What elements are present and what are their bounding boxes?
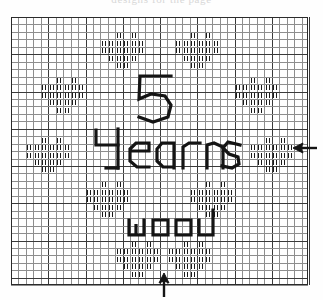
stitch-mark [190, 32, 197, 39]
stitch-mark [138, 248, 145, 255]
stitch-mark [123, 40, 130, 47]
stitch-mark [153, 256, 160, 263]
stitch-mark [78, 92, 85, 99]
stitch-mark [108, 196, 115, 203]
stitch-mark [272, 144, 279, 151]
stitch-mark [101, 40, 108, 47]
stitch-mark [272, 92, 279, 99]
stitch-mark [257, 92, 264, 99]
stitch-mark [64, 99, 71, 106]
stitch-mark [198, 241, 205, 248]
stitch-mark [205, 181, 212, 188]
stitch-mark [101, 47, 108, 54]
stitch-mark [56, 92, 63, 99]
stitch-mark [168, 256, 175, 263]
stitch-mark [183, 256, 190, 263]
stitch-mark [71, 84, 78, 91]
stitch-mark [213, 40, 220, 47]
stitch-mark [116, 181, 123, 188]
stitch-mark [183, 47, 190, 54]
stitch-mark [93, 204, 100, 211]
stitch-mark [108, 55, 115, 62]
stitch-mark [213, 47, 220, 54]
stitch-mark [205, 55, 212, 62]
stitch-mark [250, 77, 257, 84]
stitch-mark [146, 263, 153, 270]
stitch-mark [205, 40, 212, 47]
stitch-mark [272, 166, 279, 173]
stitch-mark [183, 248, 190, 255]
stitch-mark [71, 99, 78, 106]
stitch-mark [49, 99, 56, 106]
stitch-mark [146, 248, 153, 255]
stitch-mark [131, 271, 138, 278]
stitch-mark [116, 248, 123, 255]
stitch-mark [26, 152, 33, 159]
stitch-mark [235, 84, 242, 91]
stitch-mark [190, 263, 197, 270]
stitch-mark [242, 84, 249, 91]
stitch-mark [198, 47, 205, 54]
stitch-mark [138, 47, 145, 54]
stitch-mark [175, 47, 182, 54]
stitch-mark [183, 263, 190, 270]
stitch-mark [183, 40, 190, 47]
stitch-mark [183, 271, 190, 278]
stitch-mark [56, 152, 63, 159]
stitch-mark [265, 84, 272, 91]
stitch-mark [123, 256, 130, 263]
stitch-mark [116, 189, 123, 196]
stitch-mark [131, 47, 138, 54]
stitch-mark [131, 263, 138, 270]
stitch-mark [190, 248, 197, 255]
stitch-mark [34, 152, 41, 159]
stitch-mark [265, 144, 272, 151]
stitch-mark [146, 241, 153, 248]
stitch-mark [265, 99, 272, 106]
stitch-mark [190, 196, 197, 203]
stitch-mark [93, 189, 100, 196]
stitch-mark [123, 62, 130, 69]
stitch-mark [56, 99, 63, 106]
stitch-mark [205, 196, 212, 203]
stitch-mark [41, 137, 48, 144]
stitch-mark [49, 92, 56, 99]
stitch-mark [190, 40, 197, 47]
stitch-mark [101, 211, 108, 218]
stitch-mark [190, 271, 197, 278]
stitch-mark [56, 107, 63, 114]
stitch-mark [175, 256, 182, 263]
stitch-mark [41, 144, 48, 151]
stitch-mark [131, 241, 138, 248]
stitch-mark [250, 144, 257, 151]
stitch-mark [116, 47, 123, 54]
stitch-mark [108, 40, 115, 47]
stitch-mark [190, 189, 197, 196]
stitch-mark [205, 248, 212, 255]
stitch-mark [64, 144, 71, 151]
stitch-mark [250, 107, 257, 114]
stitch-mark [168, 248, 175, 255]
stitch-mark [131, 256, 138, 263]
stitch-mark [116, 32, 123, 39]
stitch-mark [198, 62, 205, 69]
stitch-mark [257, 152, 264, 159]
stitch-mark [250, 92, 257, 99]
stitch-mark [190, 62, 197, 69]
stitch-mark [116, 62, 123, 69]
stitch-mark [116, 204, 123, 211]
stitch-mark [257, 144, 264, 151]
stitch-mark [242, 92, 249, 99]
stitch-mark [123, 263, 130, 270]
scanned-page: designs for the page [0, 0, 323, 300]
stitch-mark [116, 40, 123, 47]
cross-stitch-chart[interactable] [11, 17, 308, 285]
stitch-mark [56, 84, 63, 91]
stitch-mark [198, 189, 205, 196]
stitch-mark [26, 144, 33, 151]
stitch-mark [235, 92, 242, 99]
stitch-mark [123, 189, 130, 196]
stitch-mark [56, 159, 63, 166]
stitch-mark [205, 32, 212, 39]
stitch-mark [257, 107, 264, 114]
